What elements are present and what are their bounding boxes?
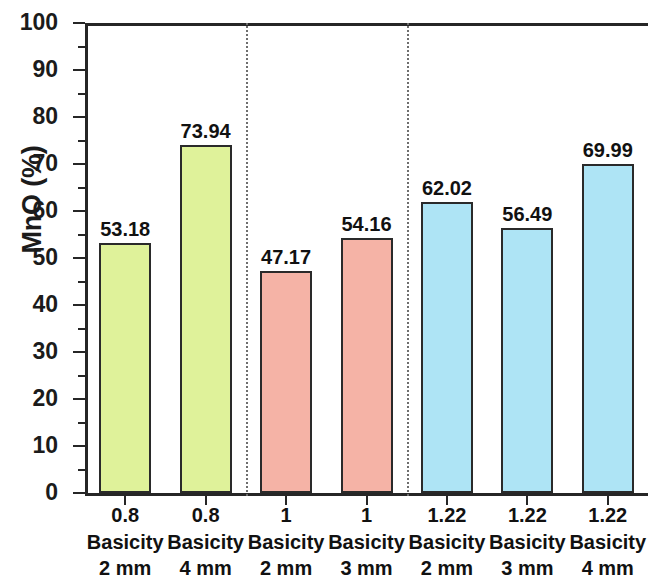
y-tick-major: 30 [73, 351, 85, 353]
x-category-size: 3 mm [328, 555, 405, 576]
x-category-basicity-value: 1 [328, 502, 405, 529]
axis-left-spine [85, 23, 88, 496]
group-separator-line [407, 23, 409, 496]
y-tick-minor [78, 469, 85, 471]
y-tick-major: 90 [73, 69, 85, 71]
x-category-basicity-value: 0.8 [87, 502, 164, 529]
bar: 53.18 [99, 243, 151, 493]
axis-top-spine [85, 23, 648, 26]
x-category-label: 1Basicity3 mm [328, 502, 405, 576]
y-tick-label: 30 [32, 338, 58, 365]
x-category-basicity-word: Basicity [167, 529, 244, 556]
x-category-label: 1Basicity2 mm [248, 502, 325, 576]
y-tick-label: 70 [32, 150, 58, 177]
x-category-basicity-word: Basicity [569, 529, 646, 556]
bar: 56.49 [501, 228, 553, 494]
x-category-basicity-value: 1.22 [569, 502, 646, 529]
bar-value-label: 69.99 [583, 139, 633, 162]
x-category-basicity-value: 0.8 [167, 502, 244, 529]
y-tick-minor [78, 281, 85, 283]
y-tick-label: 20 [32, 385, 58, 412]
bar: 47.17 [260, 271, 312, 493]
x-category-label: 0.8Basicity2 mm [87, 502, 164, 576]
y-tick-label: 10 [32, 432, 58, 459]
y-tick-minor [78, 422, 85, 424]
x-category-size: 4 mm [167, 555, 244, 576]
y-tick-minor [78, 140, 85, 142]
bar-value-label: 62.02 [422, 177, 472, 200]
bar: 73.94 [180, 145, 232, 493]
y-tick-minor [78, 93, 85, 95]
bar-value-label: 56.49 [502, 203, 552, 226]
x-category-size: 2 mm [409, 555, 486, 576]
x-category-basicity-word: Basicity [489, 529, 566, 556]
y-tick-label: 50 [32, 244, 58, 271]
bar: 62.02 [421, 202, 473, 493]
plot-area: 0102030405060708090100 53.1873.9447.1754… [85, 23, 648, 496]
group-separator-line [246, 23, 248, 496]
x-category-label: 1.22Basicity2 mm [409, 502, 486, 576]
y-tick-major: 20 [73, 398, 85, 400]
x-category-label: 0.8Basicity4 mm [167, 502, 244, 576]
y-tick-major: 60 [73, 210, 85, 212]
bar-value-label: 47.17 [261, 246, 311, 269]
x-category-size: 2 mm [87, 555, 164, 576]
bar: 54.16 [341, 238, 393, 493]
bar-chart-figure: MnO (%) 0102030405060708090100 53.1873.9… [0, 0, 648, 576]
x-category-basicity-word: Basicity [248, 529, 325, 556]
y-tick-label: 0 [45, 479, 58, 506]
x-category-size: 4 mm [569, 555, 646, 576]
bar-value-label: 73.94 [181, 120, 231, 143]
y-tick-major: 10 [73, 445, 85, 447]
y-tick-major: 80 [73, 116, 85, 118]
y-tick-major: 70 [73, 163, 85, 165]
y-tick-minor [78, 46, 85, 48]
x-category-label: 1.22Basicity4 mm [569, 502, 646, 576]
bar: 69.99 [582, 164, 634, 493]
x-category-basicity-value: 1.22 [489, 502, 566, 529]
y-tick-major: 50 [73, 257, 85, 259]
y-tick-major: 40 [73, 304, 85, 306]
x-category-basicity-word: Basicity [87, 529, 164, 556]
y-tick-minor [78, 375, 85, 377]
y-tick-minor [78, 234, 85, 236]
x-category-basicity-value: 1 [248, 502, 325, 529]
bar-value-label: 54.16 [341, 213, 391, 236]
y-tick-label: 60 [32, 197, 58, 224]
y-tick-label: 80 [32, 103, 58, 130]
y-tick-major: 100 [73, 22, 85, 24]
y-tick-label: 100 [20, 9, 58, 36]
y-tick-major: 0 [73, 492, 85, 494]
y-tick-minor [78, 187, 85, 189]
y-tick-label: 90 [32, 56, 58, 83]
x-category-size: 3 mm [489, 555, 566, 576]
x-category-size: 2 mm [248, 555, 325, 576]
x-category-basicity-word: Basicity [328, 529, 405, 556]
x-category-basicity-value: 1.22 [409, 502, 486, 529]
bar-value-label: 53.18 [100, 218, 150, 241]
x-category-label: 1.22Basicity3 mm [489, 502, 566, 576]
y-tick-minor [78, 328, 85, 330]
y-tick-label: 40 [32, 291, 58, 318]
x-category-basicity-word: Basicity [409, 529, 486, 556]
